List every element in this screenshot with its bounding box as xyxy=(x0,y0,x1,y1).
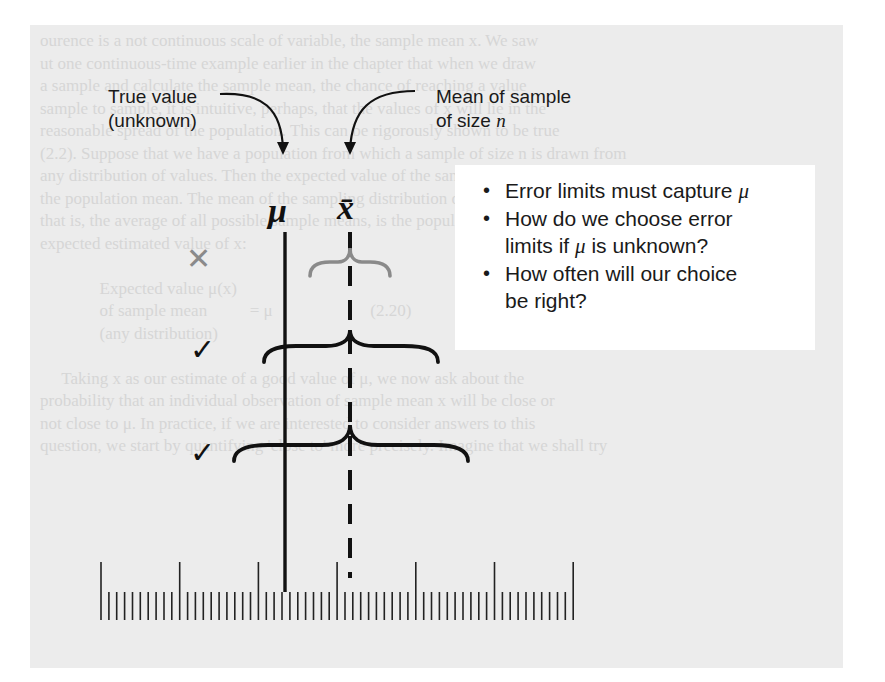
bullet-2-text-rest: is unknown? xyxy=(586,234,709,257)
bullet-points-box: Error limits must capture μ How do we ch… xyxy=(455,165,815,350)
bullet-2-text: How do we choose error xyxy=(505,207,733,230)
bullet-1-mu: μ xyxy=(738,179,749,203)
true-value-arrow-icon xyxy=(220,94,289,155)
measurement-scale-ruler xyxy=(101,562,573,620)
bullet-3-text: How often will our choice xyxy=(505,262,737,285)
bullet-2-mu: μ xyxy=(575,234,586,258)
bullet-1-text: Error limits must capture xyxy=(505,179,738,202)
bullet-item-1: Error limits must capture μ xyxy=(483,177,805,205)
bullet-list: Error limits must capture μ How do we ch… xyxy=(483,177,805,314)
bullet-item-3: How often will our choicebe right? xyxy=(483,260,805,314)
sample-mean-arrow-icon xyxy=(344,91,415,155)
bullet-3-text-cont: be right? xyxy=(505,289,587,312)
bullet-2-text-cont: limits if xyxy=(505,234,575,257)
bullet-item-2: How do we choose errorlimits if μ is unk… xyxy=(483,205,805,260)
